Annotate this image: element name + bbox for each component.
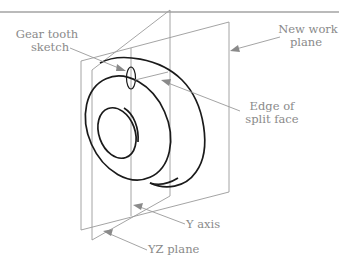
label-gear-tooth-line2: sketch xyxy=(31,40,70,54)
label-edge-split-line2: split face xyxy=(245,112,298,126)
label-yz-plane: YZ plane xyxy=(147,242,200,256)
leader-yz-plane xyxy=(103,229,147,250)
leader-y-axis xyxy=(133,203,185,224)
label-y-axis: Y axis xyxy=(185,217,220,231)
leader-new-work-plane xyxy=(230,37,280,52)
label-new-work-plane-line1: New work xyxy=(278,22,339,36)
gear-blank xyxy=(69,58,204,194)
gear-work-plane-diagram: Gear tooth sketch New work plane Edge of… xyxy=(0,0,339,271)
leader-edge-split xyxy=(161,79,240,111)
new-work-plane xyxy=(81,22,229,230)
label-new-work-plane-line2: plane xyxy=(290,35,322,49)
split-face-edge xyxy=(135,72,168,80)
label-gear-tooth-line1: Gear tooth xyxy=(16,27,79,41)
label-edge-split-line1: Edge of xyxy=(250,99,296,113)
